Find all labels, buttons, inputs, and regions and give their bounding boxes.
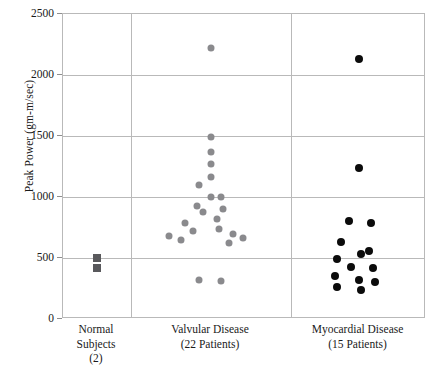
y-tick-mark [57, 318, 62, 319]
data-point [208, 161, 215, 168]
data-point [216, 225, 223, 232]
data-point [337, 238, 345, 246]
data-point [230, 230, 237, 237]
data-point [357, 286, 365, 294]
data-point [371, 278, 379, 286]
x-group-count: (15 Patients) [290, 337, 425, 352]
gridline [63, 197, 424, 198]
gridline [63, 75, 424, 76]
y-tick-label: 2000 [8, 68, 54, 80]
data-point [208, 45, 215, 52]
data-point [367, 219, 375, 227]
data-point [208, 174, 215, 181]
y-tick-label: 500 [8, 251, 54, 263]
gridline [63, 136, 424, 137]
x-group-label: Myocardial Disease(15 Patients) [290, 322, 425, 351]
data-point [331, 272, 339, 280]
y-tick-label: 0 [8, 312, 54, 324]
data-point [333, 283, 341, 291]
group-divider-2 [291, 14, 292, 317]
group-divider-1 [131, 14, 132, 317]
data-point [357, 250, 365, 258]
x-group-count: (22 Patients) [130, 337, 290, 352]
data-point [369, 264, 377, 272]
data-point [226, 240, 233, 247]
gridline [63, 258, 424, 259]
data-point [240, 235, 247, 242]
data-point [214, 215, 221, 222]
data-point [208, 134, 215, 141]
data-point [178, 236, 185, 243]
data-point [355, 55, 363, 63]
data-point [218, 194, 225, 201]
y-tick-label: 2500 [8, 7, 54, 19]
data-point [196, 181, 203, 188]
data-point [220, 206, 227, 213]
x-group-label: Valvular Disease(22 Patients) [130, 322, 290, 351]
data-point [347, 263, 355, 271]
x-group-name: Valvular Disease [130, 322, 290, 337]
y-tick-label: 1000 [8, 190, 54, 202]
data-point [93, 264, 101, 272]
data-point [93, 254, 101, 262]
data-point [196, 276, 203, 283]
chart-root: Peak Power (gm-m/sec) 050010001500200025… [0, 0, 432, 365]
x-group-name: Myocardial Disease [290, 322, 425, 337]
data-point [200, 208, 207, 215]
data-point [208, 194, 215, 201]
x-group-count: (2) [62, 351, 130, 365]
data-point [365, 247, 373, 255]
data-point [208, 148, 215, 155]
data-point [218, 278, 225, 285]
data-point [333, 255, 341, 263]
plot-area [62, 13, 425, 318]
data-point [166, 233, 173, 240]
data-point [190, 228, 197, 235]
data-point [182, 219, 189, 226]
x-group-name: Normal Subjects [62, 322, 130, 351]
data-point [355, 276, 363, 284]
data-point [345, 217, 353, 225]
x-group-label: Normal Subjects(2) [62, 322, 130, 365]
data-point [355, 164, 363, 172]
y-tick-label: 1500 [8, 129, 54, 141]
data-point [194, 202, 201, 209]
